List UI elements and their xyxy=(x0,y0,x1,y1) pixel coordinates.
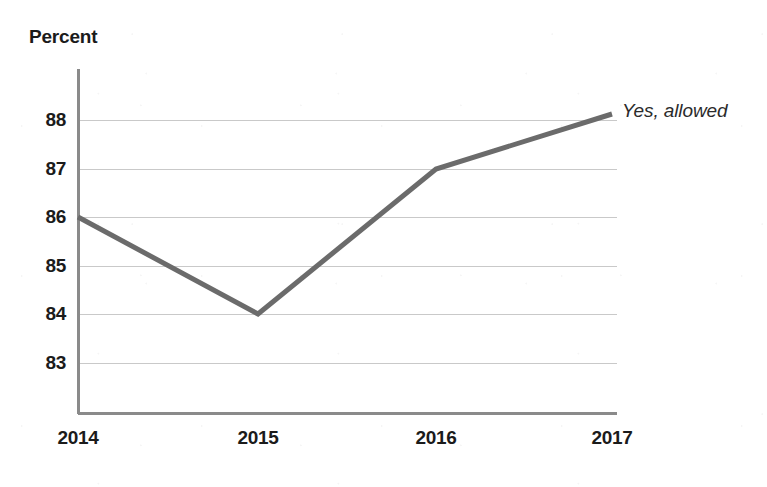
series-end-label: Yes, allowed xyxy=(622,100,727,122)
line-chart: Percent 88 87 86 85 84 83 2014 2015 2016… xyxy=(0,0,767,487)
x-tick-label: 2015 xyxy=(237,427,278,449)
x-axis-tick-labels: 2014 2015 2016 2017 xyxy=(0,0,767,487)
x-tick-label: 2014 xyxy=(57,427,98,449)
x-tick-label: 2017 xyxy=(591,427,632,449)
x-tick-label: 2016 xyxy=(415,427,456,449)
